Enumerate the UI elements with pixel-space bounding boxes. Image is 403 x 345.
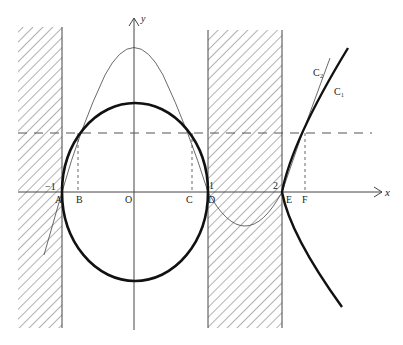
y-axis	[129, 18, 139, 330]
curve-label-c2: C₂	[313, 67, 323, 78]
thin-curve	[44, 48, 330, 256]
tick-label-one: 1	[209, 180, 214, 191]
point-label-o: O	[125, 194, 132, 205]
x-axis-label: x	[384, 186, 390, 198]
x-axis	[18, 187, 382, 197]
hatched-region-left	[18, 27, 62, 328]
y-axis-label: y	[140, 13, 146, 24]
point-label-e: E	[286, 194, 292, 205]
point-label-b: B	[76, 194, 83, 205]
tick-label-two: 2	[273, 180, 278, 191]
point-label-c: C	[186, 194, 193, 205]
point-label-a: A	[55, 194, 63, 205]
tick-label-neg-one: −1	[45, 181, 56, 192]
hatched-region-middle	[208, 30, 282, 328]
diagram-figure: y x −1 1 2 A B O C D E F C₂ C₁	[0, 0, 403, 345]
point-label-d: D	[208, 194, 215, 205]
point-label-f: F	[302, 194, 308, 205]
curve-label-c1: C₁	[334, 86, 344, 97]
